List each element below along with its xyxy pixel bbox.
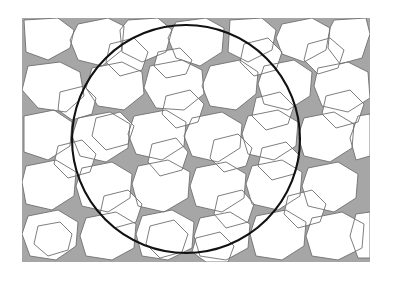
micrograph-canvas: [0, 0, 393, 285]
figure-root: [0, 0, 393, 285]
